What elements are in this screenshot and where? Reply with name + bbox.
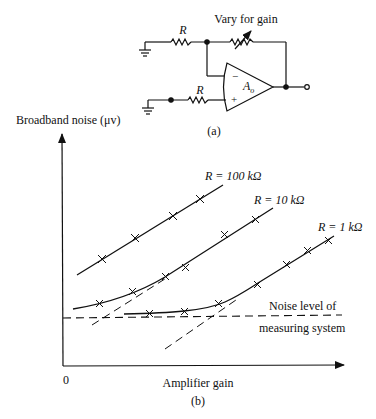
noise-floor-label-line1: Noise level of [269,300,336,312]
caption-b: (b) [191,395,205,407]
resistor-top-label: R [179,24,186,36]
ground-symbol-top [139,42,151,56]
pot-label: Vary for gain [214,13,277,25]
opamp-gain-subscript: o [250,86,254,95]
noise-floor-label-line2: measuring system [259,322,345,334]
curve-label-r10k: R = 10 kΩ [254,194,304,206]
node-bottom [169,98,173,102]
figure-canvas [0,0,376,419]
origin-label: 0 [63,374,69,386]
node-output [284,85,288,89]
x-axis-label: Amplifier gain [163,377,234,389]
resistor-top [171,39,191,45]
y-axis [62,134,63,366]
asymptote-r1k [165,300,236,349]
resistor-bottom [188,97,208,103]
opamp-gain-label: Ao [243,80,254,95]
plus-input-label: + [231,94,237,105]
caption-a: (a) [207,125,220,137]
curve-label-r100k: R = 100 kΩ [205,170,261,182]
ground-symbol-bottom [142,100,154,114]
y-axis-label: Broadband noise (μv) [16,114,120,126]
output-terminal [305,85,310,90]
x-axis [63,365,344,366]
resistor-bottom-label: R [196,84,203,96]
circuit-diagram [139,31,309,114]
minus-input-label: − [232,71,238,82]
curve-label-r1k: R = 1 kΩ [318,221,362,233]
